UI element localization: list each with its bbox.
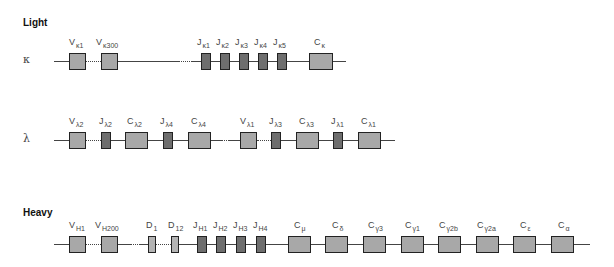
gene-segment-j-kappa5 [277,53,287,70]
label-j-lambda2: Jλ2 [99,117,112,126]
kappa-line [54,61,69,62]
label-main: J [99,116,104,126]
label-v-lambda2: Vλ2 [69,117,83,126]
label-j-h1: JH1 [193,221,207,230]
label-j-kappa4: Jκ4 [254,38,267,47]
label-main: J [269,116,274,126]
heavy-gap-dots [86,244,101,245]
label-j-kappa3: Jκ3 [235,38,248,47]
label-main: V [95,220,101,230]
label-main: C [191,116,198,126]
label-sub: λ1 [247,121,254,128]
label-sub: κ1 [76,42,83,49]
label-sub: λ3 [307,121,314,128]
label-v-kappa1: Vκ1 [69,38,83,47]
lambda-gap-dots [257,140,271,141]
gene-segment-j-kappa4 [258,53,268,70]
label-sub: γ1 [413,225,420,232]
section-title-light: Light [23,17,47,28]
label-c-lambda2: Cλ2 [127,117,142,126]
label-sub: κ5 [279,42,286,49]
label-main: J [235,37,240,47]
label-main: V [69,116,75,126]
label-main: J [197,37,202,47]
gene-segment-j-h2 [216,236,226,253]
label-j-h2: JH2 [213,221,227,230]
label-main: C [558,220,565,230]
label-d1: D1 [146,221,157,230]
label-v-h1: VH1 [69,221,85,230]
label-main: V [96,37,102,47]
heavy-line [117,244,130,245]
label-sub: H200 [102,225,119,232]
label-c-gamma2a: Cγ2a [477,221,496,230]
lambda-gap-dots [86,140,101,141]
gene-segment-v-kappa300 [101,53,118,70]
label-j-kappa2: Jκ2 [216,38,229,47]
gene-segment-c-lambda2 [125,132,148,149]
label-j-kappa5: Jκ5 [273,38,286,47]
label-sub: H1 [76,225,85,232]
label-main: J [193,220,198,230]
label-c-gamma2b: Cγ2b [439,221,458,230]
label-sub: α [566,225,570,232]
label-sub: H4 [259,225,268,232]
label-sub: ε [528,225,531,232]
label-sub: κ2 [222,42,229,49]
gene-segment-j-kappa1 [201,53,211,70]
gene-segment-c-gamma2a [476,236,499,253]
gene-segment-c-gamma1 [401,236,424,253]
label-c-gamma3: Cγ3 [368,221,383,230]
label-sub: λ4 [199,121,206,128]
label-main: J [160,116,165,126]
label-c-alpha: Cα [558,221,570,230]
gene-segment-j-lambda3 [271,132,281,149]
gene-segment-c-mu [288,236,311,253]
label-c-kappa: Cκ [314,38,325,47]
label-sub: λ4 [166,121,173,128]
label-v-kappa300: Vκ300 [96,38,118,47]
gene-segment-c-kappa [309,53,333,70]
lambda-line [229,140,240,141]
label-sub: H3 [239,225,248,232]
label-v-h200: VH200 [95,221,119,230]
label-main: J [216,37,221,47]
label-sub: λ1 [369,121,376,128]
label-sub: γ2a [485,225,496,232]
label-sub: δ [340,225,344,232]
label-j-lambda4: Jλ4 [160,117,173,126]
label-c-gamma1: Cγ1 [405,221,420,230]
label-main: V [69,220,75,230]
gene-segment-v-kappa1 [69,53,86,70]
gene-segment-j-kappa3 [239,53,249,70]
gene-segment-c-gamma2b [438,236,461,253]
label-sub: κ4 [260,42,267,49]
label-main: C [405,220,412,230]
label-main: D [146,220,153,230]
lambda-gap-dots [221,140,229,141]
label-sub: κ1 [203,42,210,49]
label-sub: λ2 [76,121,83,128]
label-main: C [477,220,484,230]
label-main: J [233,220,238,230]
label-c-lambda4: Cλ4 [191,117,206,126]
label-c-lambda1: Cλ1 [361,117,376,126]
label-main: C [332,220,339,230]
gene-segment-j-h3 [236,236,246,253]
kappa-row-label: κ [23,53,30,66]
label-j-kappa1: Jκ1 [197,38,210,47]
label-main: J [331,116,336,126]
label-main: D [168,220,175,230]
gene-segment-j-lambda2 [101,132,111,149]
label-c-lambda3: Cλ3 [299,117,314,126]
label-j-h4: JH4 [253,221,267,230]
heavy-gap-dots [130,244,140,245]
gene-segment-c-lambda4 [188,132,211,149]
label-main: C [314,37,321,47]
gene-segment-j-kappa2 [220,53,230,70]
label-main: J [213,220,218,230]
label-c-delta: Cδ [332,221,343,230]
label-main: V [240,116,246,126]
heavy-line [54,244,69,245]
label-main: C [127,116,134,126]
